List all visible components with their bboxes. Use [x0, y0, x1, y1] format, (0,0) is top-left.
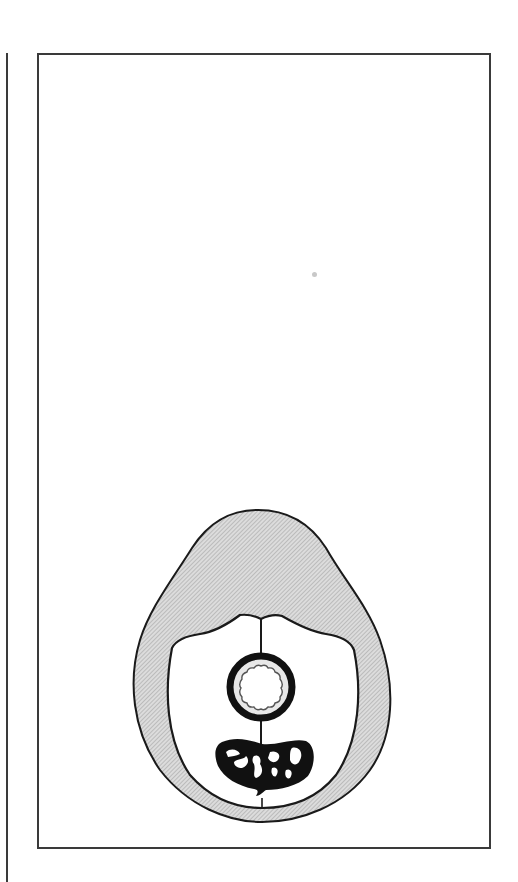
wavy-lumen — [240, 665, 283, 709]
ring-structure — [230, 656, 292, 718]
page: Schematic cross-section: hatched outer l… — [0, 0, 518, 882]
cross-section-figure — [0, 0, 518, 882]
